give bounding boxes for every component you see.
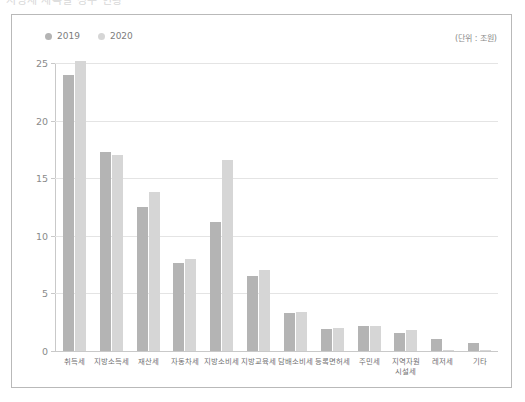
bar-2019[interactable] <box>100 152 111 351</box>
y-tick-label-20: 20 <box>36 115 48 126</box>
chart-legend: 2019 2020 <box>45 32 133 41</box>
bar-2019[interactable] <box>137 207 148 351</box>
bar-2020[interactable] <box>480 350 491 351</box>
chart-card: 2019 2020 (단위 : 조원) 0510152025 취득세지방소득세재… <box>11 14 512 388</box>
bar-group <box>351 63 388 351</box>
bar-2020[interactable] <box>75 61 86 351</box>
x-axis-label: 재산세 <box>130 355 167 389</box>
bar-group <box>240 63 277 351</box>
x-axis-label: 지역자원 시설세 <box>387 355 424 389</box>
y-tick-0 <box>51 351 55 352</box>
bar-group <box>314 63 351 351</box>
y-tick-10 <box>51 236 55 237</box>
bar-group <box>130 63 167 351</box>
plot-area: 0510152025 <box>55 63 498 351</box>
bar-2020[interactable] <box>333 328 344 351</box>
x-axis-label: 지방교육세 <box>240 355 277 389</box>
bars-layer <box>56 63 498 351</box>
bar-2020[interactable] <box>222 160 233 351</box>
bar-group <box>424 63 461 351</box>
y-tick-20 <box>51 121 55 122</box>
bar-2019[interactable] <box>173 263 184 351</box>
bar-2019[interactable] <box>284 313 295 351</box>
x-axis-label: 주민세 <box>351 355 388 389</box>
bar-2020[interactable] <box>443 350 454 351</box>
x-axis-label: 취득세 <box>56 355 93 389</box>
legend-item-2019[interactable]: 2019 <box>45 32 80 41</box>
bar-2020[interactable] <box>185 259 196 351</box>
bar-2020[interactable] <box>259 270 270 351</box>
x-axis-label: 기타 <box>461 355 498 389</box>
y-tick-5 <box>51 293 55 294</box>
y-tick-label-10: 10 <box>36 230 48 241</box>
bar-2020[interactable] <box>370 326 381 351</box>
x-axis-label: 자동차세 <box>166 355 203 389</box>
bar-2020[interactable] <box>112 155 123 351</box>
bar-group <box>93 63 130 351</box>
x-axis-labels: 취득세지방소득세재산세자동차세지방소비세지방교육세담배소비세등록면허세주민세지역… <box>56 355 498 389</box>
legend-swatch-2019 <box>45 33 52 40</box>
bar-2020[interactable] <box>149 192 160 351</box>
bar-2019[interactable] <box>321 329 332 351</box>
bar-2019[interactable] <box>394 333 405 351</box>
legend-swatch-2020 <box>98 33 105 40</box>
x-axis-label: 지방소득세 <box>93 355 130 389</box>
unit-note: (단위 : 조원) <box>455 32 497 43</box>
x-axis-label: 담배소비세 <box>277 355 314 389</box>
x-axis-label: 등록면허세 <box>314 355 351 389</box>
bar-2019[interactable] <box>63 75 74 351</box>
bar-2020[interactable] <box>406 330 417 351</box>
bar-group <box>203 63 240 351</box>
legend-label-2020: 2020 <box>110 32 133 41</box>
y-tick-label-0: 0 <box>42 346 48 357</box>
y-tick-label-25: 25 <box>36 58 48 69</box>
legend-label-2019: 2019 <box>57 32 80 41</box>
gridline-0 <box>55 351 498 352</box>
legend-item-2020[interactable]: 2020 <box>98 32 133 41</box>
bar-group <box>277 63 314 351</box>
y-tick-15 <box>51 178 55 179</box>
x-axis-label: 레저세 <box>424 355 461 389</box>
bar-2020[interactable] <box>296 312 307 351</box>
bar-group <box>166 63 203 351</box>
bar-2019[interactable] <box>210 222 221 351</box>
y-tick-25 <box>51 63 55 64</box>
bar-group <box>461 63 498 351</box>
y-tick-label-5: 5 <box>42 288 48 299</box>
y-tick-label-15: 15 <box>36 173 48 184</box>
bar-group <box>387 63 424 351</box>
bar-2019[interactable] <box>358 326 369 351</box>
bar-group <box>56 63 93 351</box>
bar-2019[interactable] <box>431 339 442 351</box>
clipped-headline: 지방세 세목별 징수 현황 <box>0 0 525 13</box>
bar-2019[interactable] <box>468 343 479 351</box>
x-axis-label: 지방소비세 <box>203 355 240 389</box>
bar-2019[interactable] <box>247 276 258 351</box>
clipped-headline-text: 지방세 세목별 징수 현황 <box>0 0 525 7</box>
